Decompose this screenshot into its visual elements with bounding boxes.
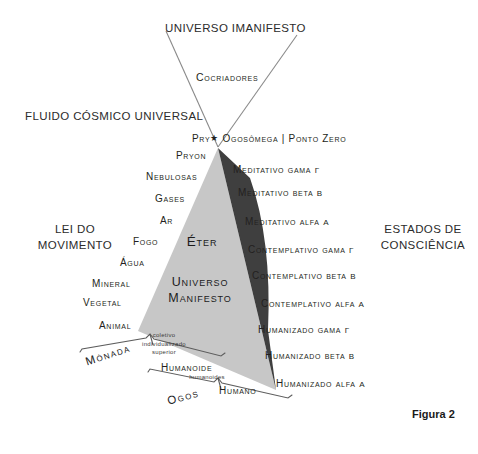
- greek-gamma-icon: γ: [315, 162, 319, 176]
- greek-beta-icon: β: [350, 268, 355, 282]
- animal-sublabels: coletivo individualizado superior: [126, 331, 202, 357]
- tier-animal: Animal: [99, 320, 131, 332]
- state-name: Meditativo: [238, 187, 289, 198]
- heading-estados-de-consciencia: ESTADOS DE CONSCIÊNCIA: [375, 222, 471, 253]
- state-band: beta: [293, 187, 314, 198]
- state-humanizado-beta: Humanizado beta β: [265, 349, 354, 363]
- greek-beta-icon: β: [349, 348, 354, 362]
- state-name: Meditativo: [233, 164, 284, 175]
- greek-alpha-icon: α: [359, 296, 364, 310]
- tier-vegetal: Vegetal: [83, 297, 122, 309]
- tier-agua: Água: [120, 257, 145, 269]
- state-band: gama: [322, 244, 345, 255]
- humanoide-sublabel: humanoides: [181, 373, 233, 382]
- tier-humanoide: Humanoide: [161, 362, 212, 374]
- universo-manifesto-line2: Manifesto: [168, 291, 231, 305]
- state-band: alfa: [300, 216, 320, 227]
- estados-line2: CONSCIÊNCIA: [381, 239, 465, 251]
- tier-humano: Humano: [219, 385, 256, 397]
- state-name: Contemplativo: [252, 270, 323, 281]
- state-band: beta: [326, 270, 347, 281]
- state-band: alfa: [336, 378, 356, 389]
- greek-gamma-icon: γ: [349, 242, 353, 256]
- state-contemplativo-beta: Contemplativo beta β: [252, 269, 356, 283]
- state-meditativo-gama: Meditativo gama γ: [233, 163, 319, 177]
- state-name: Humanizado: [265, 350, 321, 361]
- state-humanizado-gama: Humanizado gama γ: [258, 323, 349, 337]
- state-band: beta: [325, 350, 346, 361]
- greek-beta-icon: β: [317, 185, 322, 199]
- ogosomega-label: Ogosômega | Ponto Zero: [223, 133, 347, 144]
- label-pry-ogosomega-ponto-zero: Pry★ Ogosômega | Ponto Zero: [192, 133, 346, 145]
- estados-line1: ESTADOS DE: [384, 223, 461, 235]
- heading-universo-imanifesto: UNIVERSO IMANIFESTO: [165, 22, 306, 35]
- apex-ray-right: [218, 35, 297, 147]
- state-band: gama: [288, 164, 311, 175]
- lei-do-movimento-line2: MOVIMENTO: [38, 239, 112, 251]
- animal-sub-individualizado: individualizado: [142, 341, 186, 347]
- figure-container: UNIVERSO IMANIFESTO FLUIDO CÓSMICO UNIVE…: [0, 0, 478, 454]
- animal-sub-coletivo: coletivo: [153, 332, 176, 338]
- state-name: Meditativo: [245, 216, 296, 227]
- state-meditativo-beta: Meditativo beta β: [238, 186, 322, 200]
- pry-label: Pry: [192, 133, 210, 144]
- apex-ray-left: [166, 31, 218, 147]
- tier-ar: Ar: [160, 215, 173, 227]
- tier-gases: Gases: [155, 193, 185, 205]
- tier-mineral: Mineral: [92, 278, 131, 290]
- greek-gamma-icon: γ: [345, 322, 349, 336]
- state-contemplativo-gama: Contemplativo gama γ: [248, 243, 353, 257]
- tier-pryon: Pryon: [176, 150, 206, 162]
- state-name: Contemplativo: [248, 244, 319, 255]
- heading-fluido-cosmico-universal: FLUIDO CÓSMICO UNIVERSAL: [25, 110, 203, 123]
- universo-manifesto-line1: Universo: [172, 275, 229, 289]
- lei-do-movimento-line1: LEI DO: [55, 223, 95, 235]
- label-cocriadores: Cocriadores: [196, 71, 258, 83]
- state-contemplativo-alfa: Contemplativo alfa α: [261, 297, 364, 311]
- greek-alpha-icon: α: [323, 214, 328, 228]
- greek-alpha-icon: α: [359, 376, 364, 390]
- state-band: alfa: [335, 298, 355, 309]
- state-name: Humanizado: [276, 378, 332, 389]
- label-eter: Éter: [172, 234, 232, 250]
- heading-lei-do-movimento: LEI DO MOVIMENTO: [30, 222, 120, 253]
- star-icon: ★: [210, 133, 219, 143]
- state-band: gama: [318, 324, 341, 335]
- tier-fogo: Fogo: [133, 236, 158, 248]
- state-meditativo-alfa: Meditativo alfa α: [245, 215, 328, 229]
- animal-sub-superior: superior: [152, 349, 176, 355]
- state-humanizado-alfa: Humanizado alfa α: [276, 377, 364, 391]
- state-name: Contemplativo: [261, 298, 332, 309]
- state-name: Humanizado: [258, 324, 314, 335]
- label-universo-manifesto: Universo Manifesto: [140, 275, 260, 306]
- figure-caption: Figura 2: [412, 408, 455, 421]
- tier-nebulosas: Nebulosas: [146, 171, 197, 183]
